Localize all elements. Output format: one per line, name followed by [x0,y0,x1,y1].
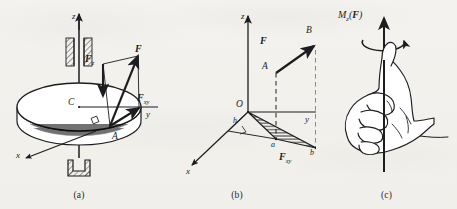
panel-a-point-a-label: A [112,132,118,142]
center-point-marker [78,106,80,108]
panel-a: z x y C A F Fz Fxy (a) [0,0,158,209]
panel-c-caption: (c) [316,190,457,200]
panel-b-force-F-arrow [276,46,314,73]
panel-b-z-axis-label: z [241,12,245,21]
panel-b-y-axis-label: y [305,115,309,124]
altitude-guide [228,112,248,131]
panel-b-x-axis-label: x [186,167,190,176]
panel-a-drawing [0,0,158,209]
panel-b-point-A-label: A [262,62,268,72]
panel-c-drawing [316,0,457,209]
moment-label: Mz(F) [338,10,362,23]
panel-c: Mz(F) (c) [316,0,457,209]
panel-a-force-z-label: Fz [85,54,94,67]
right-hand-illustration [345,42,448,154]
panel-b-force-label: F [260,36,267,46]
panel-b-moment-arm-label: h [233,117,237,125]
panel-a-force-label: F [135,44,142,54]
panel-a-caption: (a) [0,190,158,200]
panel-b-point-b-label: b [310,149,314,157]
panel-a-z-axis-label: z [72,12,76,21]
panel-b-origin-label: O [236,100,243,110]
panel-b-point-a-label: a [271,141,275,149]
panel-b-point-B-label: B [306,26,312,36]
thrust-bearing-lower [68,160,90,176]
panel-a-force-xy-label: Fxy [137,93,149,106]
figure-root: z x y C A F Fz Fxy (a) [0,0,457,209]
point-a-lower-marker [275,138,277,140]
panel-a-y-axis-label: y [146,110,150,119]
panel-b-caption: (b) [158,190,316,200]
panel-b-projection-label: Fxy [279,152,291,165]
panel-b: z x y O A B a b h F Fxy (b) [158,0,316,209]
panel-a-center-label: C [68,98,74,108]
origin-marker [247,111,249,113]
panel-a-x-axis-label: x [16,151,20,160]
